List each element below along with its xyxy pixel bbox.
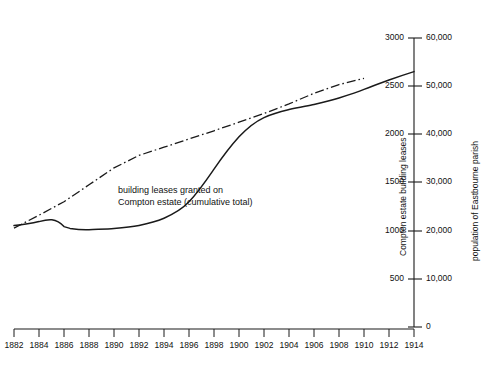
right-axis-tick-label: 60,000 — [426, 33, 466, 42]
chart-container: 1882 1884 1886 1888 1890 1892 1894 1896 … — [0, 0, 493, 367]
left-axis-tick-label: 2500 — [370, 81, 404, 90]
right-value-axis — [414, 38, 422, 327]
right-axis-tick-label: 40,000 — [426, 129, 466, 138]
left-axis-tick-label: 500 — [370, 274, 404, 283]
series-annotation-line-1: building leases granted on — [118, 184, 223, 196]
right-axis-tick-label: 20,000 — [426, 226, 466, 235]
right-axis-tick-label: 50,000 — [426, 81, 466, 90]
right-axis-tick-label: 0 — [426, 322, 466, 331]
x-axis-ticks — [39, 329, 389, 337]
chart-plot-area — [0, 0, 493, 367]
series-annotation-line-2: Compton estate (cumulative total) — [118, 196, 253, 208]
left-axis-title: Compton estate building leases — [398, 137, 408, 256]
right-axis-title: population of Eastbourne parish — [470, 141, 480, 261]
x-tick-label: 1914 — [399, 341, 429, 350]
left-axis-tick-label: 3000 — [370, 33, 404, 42]
right-axis-tick-label: 10,000 — [426, 274, 466, 283]
left-value-axis — [408, 38, 414, 327]
right-axis-tick-label: 30,000 — [426, 177, 466, 186]
